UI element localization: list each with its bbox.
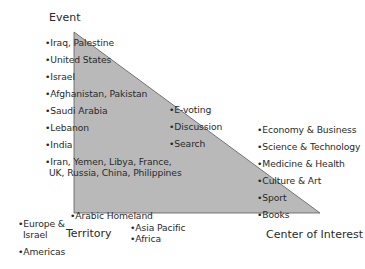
interest-item: Science & Technology [257, 141, 360, 152]
middle-item: Search [169, 138, 205, 149]
middle-item: Discussion [169, 121, 222, 132]
interest-item: Economy & Business [257, 124, 356, 135]
event-item: Afghanistan, Pakistan [45, 88, 147, 99]
interest-item: Books [257, 209, 289, 220]
territory-item-europe: Europe & [18, 218, 65, 229]
event-item: India [45, 139, 72, 150]
event-item: Saudi Arabia [45, 105, 107, 116]
axis-label-center-of-interest: Center of Interest [266, 228, 363, 241]
territory-item-europe-continued: Israel [23, 229, 48, 240]
axis-label-event: Event [49, 11, 81, 24]
event-item: Iran, Yemen, Libya, France, [45, 156, 172, 167]
territory-item-americas: Americas [18, 246, 65, 257]
interest-item: Culture & Art [257, 175, 321, 186]
event-item: United States [45, 54, 111, 65]
event-item: Israel [45, 71, 75, 82]
axis-label-territory: Territory [66, 227, 112, 240]
event-item: Lebanon [45, 122, 89, 133]
territory-item-asia-pacific: Asia Pacific [130, 222, 186, 233]
middle-item: E-voting [169, 104, 211, 115]
interest-item: Sport [257, 192, 287, 203]
interest-item: Medicine & Health [257, 158, 345, 169]
territory-item-africa: Africa [130, 233, 161, 244]
territory-item-arabic-homeland: Arabic Homeland [70, 210, 153, 221]
event-item: Iraq, Palestine [45, 37, 114, 48]
event-item-continued: UK, Russia, China, Philippines [49, 167, 182, 178]
